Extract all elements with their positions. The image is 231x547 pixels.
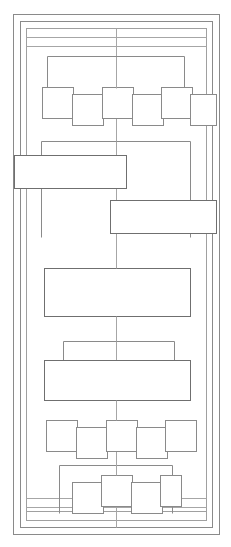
zigzag-row-top-box-6 <box>191 95 217 126</box>
zigzag-row-top-box-4 <box>133 95 164 126</box>
zigzag-row-bottom-box-5 <box>166 421 197 452</box>
zigzag-row-bottom-box-4 <box>137 428 168 459</box>
zigzag-row-last-box-4 <box>161 476 182 507</box>
zigzag-row-top-box-5 <box>162 88 193 119</box>
center-rect-large <box>45 269 191 317</box>
zigzag-row-top-box-3 <box>103 88 134 119</box>
zigzag-row-last-box-1 <box>73 483 104 514</box>
center-rect-wide <box>45 361 191 401</box>
zigzag-row-bottom-box-2 <box>77 428 108 459</box>
zigzag-row-top-box-2 <box>73 95 104 126</box>
zigzag-row-top-box-1 <box>43 88 74 119</box>
zigzag-row-last-box-3 <box>132 483 163 514</box>
diagram-svg <box>0 0 231 547</box>
diagram-canvas <box>0 0 231 547</box>
zigzag-row-last-box-2 <box>102 476 133 507</box>
zigzag-row-bottom-box-3 <box>107 421 138 452</box>
offset-rect-left <box>15 156 127 189</box>
zigzag-row-bottom-box-1 <box>47 421 78 452</box>
offset-rect-right <box>111 201 217 234</box>
